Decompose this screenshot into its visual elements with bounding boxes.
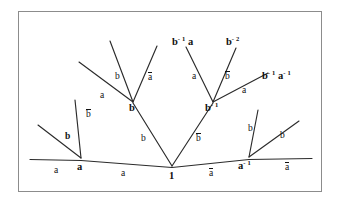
edge-label-a-b-inverse-diagonal: a (242, 86, 246, 96)
edge-label-a-bar-right-inner: a (209, 169, 213, 179)
vertex-label-identity: 1 (169, 171, 174, 182)
edge-label-a-bar-right-outer: a (285, 163, 289, 173)
edge-label-b-right-diagonal: b (280, 131, 285, 141)
vertex-label-a: a (77, 162, 82, 173)
edge-label-b-right-steep: b (248, 124, 253, 134)
edge-label-b-bar-from-a: b (86, 110, 91, 120)
vertex-label-b-inverse-a-inverse: b- 1 a- 1 (262, 71, 291, 82)
edge-label-a-left-outer: a (54, 166, 58, 176)
edge-label-b-upper-left: b (115, 72, 120, 82)
edge-label-a-bar-upper-mid: a (148, 73, 152, 83)
edge-label-b-left-stem: b (141, 134, 146, 144)
edge-label-b-from-a-diagonal: b (65, 132, 70, 142)
edge-label-b-bar-b-inverse-right: b (225, 72, 230, 82)
figure-frame (18, 11, 322, 192)
edge-label-a-left-inner: a (121, 169, 125, 179)
edge-label-b-bar-right-stem: b (196, 134, 201, 144)
edge-label-a-upper-left: a (100, 91, 104, 101)
vertex-label-b-inverse: b- 1 (205, 103, 218, 114)
vertex-label-b-inverse-a: b- 1 a (172, 37, 193, 48)
edge-label-a-b-inverse-left: a (192, 72, 196, 82)
figure-canvas: 1 a a- 1 b b- 1 b- 1 a b- 2 b- 1 a- 1 a … (0, 0, 340, 203)
vertex-label-b-inverse-2: b- 2 (226, 37, 239, 48)
vertex-label-a-inverse: a- 1 (238, 161, 251, 172)
vertex-label-b: b (129, 103, 135, 114)
